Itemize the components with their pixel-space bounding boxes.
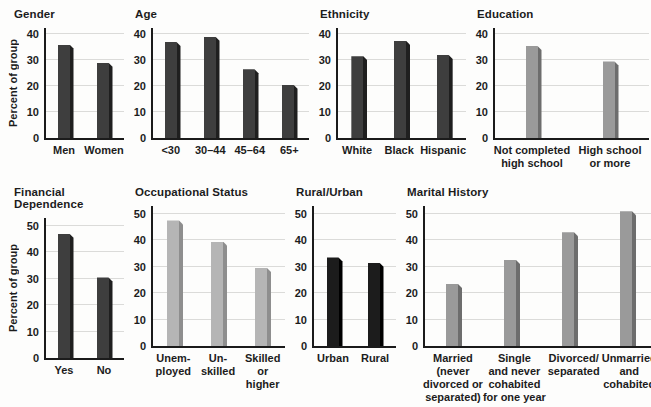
y-tick-label: 30 bbox=[295, 261, 307, 272]
category-labels: Unem- ployedUn- skilledSkilled or higher bbox=[151, 352, 285, 391]
y-axis-ticks: 01020304050 bbox=[20, 218, 44, 358]
chart-gender: GenderPercent of group010203040MenWomen bbox=[6, 8, 124, 157]
plot-area bbox=[151, 206, 285, 348]
y-tick-label: 10 bbox=[476, 107, 488, 118]
category-label: Un- skilled bbox=[196, 352, 241, 391]
y-tick-label: 40 bbox=[27, 247, 39, 258]
chart-row-1: GenderPercent of group010203040MenWomenA… bbox=[6, 8, 651, 170]
y-axis-ticks: 01020304050 bbox=[288, 206, 312, 346]
y-tick-label: 0 bbox=[140, 133, 146, 144]
bar bbox=[504, 260, 520, 346]
chart-age: Age010203040<3030–4445–6465+ bbox=[127, 8, 309, 157]
bar-slot bbox=[85, 28, 124, 138]
y-axis-label: Percent of group bbox=[6, 218, 20, 358]
bar-slot bbox=[85, 218, 124, 358]
bar bbox=[327, 257, 343, 345]
y-tick-label: 50 bbox=[406, 208, 418, 219]
bar-slot bbox=[192, 28, 231, 138]
category-label: Divorced/ separated bbox=[546, 352, 602, 404]
y-tick-label: 10 bbox=[27, 326, 39, 337]
plot-area bbox=[312, 206, 396, 348]
y-tick-label: 30 bbox=[134, 55, 146, 66]
category-label: High school or more bbox=[571, 144, 649, 170]
y-tick-label: 10 bbox=[319, 107, 331, 118]
category-label: Unmarried and cohabited bbox=[601, 352, 651, 404]
y-tick-label: 40 bbox=[134, 29, 146, 40]
bars-layer bbox=[314, 206, 396, 346]
bar bbox=[368, 263, 384, 346]
category-label: Men bbox=[44, 144, 84, 157]
y-tick-label: 20 bbox=[27, 81, 39, 92]
category-labels: MenWomen bbox=[44, 144, 124, 157]
bar-slot bbox=[241, 206, 285, 346]
y-tick-label: 30 bbox=[319, 55, 331, 66]
bar-slot bbox=[197, 206, 241, 346]
category-label: 30–44 bbox=[191, 144, 231, 157]
y-tick-label: 40 bbox=[27, 29, 39, 40]
plot-area bbox=[44, 28, 124, 140]
y-tick-label: 40 bbox=[134, 235, 146, 246]
category-label: Women bbox=[84, 144, 124, 157]
y-tick-label: 10 bbox=[295, 314, 307, 325]
y-tick-label: 20 bbox=[27, 300, 39, 311]
bars-layer bbox=[153, 28, 309, 138]
chart-row-2: Financial DependencePercent of group0102… bbox=[6, 186, 651, 404]
category-labels: <3030–4445–6465+ bbox=[151, 144, 309, 157]
bar bbox=[58, 234, 74, 358]
bars-layer bbox=[495, 28, 649, 138]
bar-slot bbox=[314, 206, 355, 346]
bar bbox=[394, 41, 410, 138]
bar-slot bbox=[338, 28, 381, 138]
y-axis-ticks: 010203040 bbox=[127, 28, 151, 138]
bar bbox=[282, 85, 298, 138]
bar bbox=[446, 284, 462, 346]
y-tick-label: 30 bbox=[27, 55, 39, 66]
category-labels: WhiteBlackHispanic bbox=[336, 144, 466, 157]
chart-body: 01020304050Married (never divorced or se… bbox=[399, 206, 651, 404]
y-tick-label: 10 bbox=[134, 107, 146, 118]
y-tick-label: 20 bbox=[319, 81, 331, 92]
y-axis-ticks: 01020304050 bbox=[127, 206, 151, 346]
chart-title: Financial Dependence bbox=[14, 186, 124, 210]
bar-slot bbox=[231, 28, 270, 138]
bar bbox=[204, 37, 220, 138]
bar bbox=[437, 55, 453, 138]
chart-title: Ethnicity bbox=[320, 8, 466, 20]
plot-column: YesNo bbox=[44, 218, 124, 377]
plot-area bbox=[44, 218, 124, 360]
category-label: No bbox=[84, 364, 124, 377]
category-label: Yes bbox=[44, 364, 84, 377]
category-labels: UrbanRural bbox=[312, 352, 396, 365]
bar bbox=[167, 220, 183, 345]
bar bbox=[620, 211, 636, 346]
bar bbox=[97, 63, 113, 138]
chart-rural-urban: Rural/Urban01020304050UrbanRural bbox=[288, 186, 396, 365]
chart-body: 01020304050Unem- ployedUn- skilledSkille… bbox=[127, 206, 285, 391]
bar bbox=[526, 46, 542, 138]
bar bbox=[562, 232, 578, 346]
bar-slot bbox=[153, 28, 192, 138]
y-tick-label: 0 bbox=[325, 133, 331, 144]
y-tick-label: 0 bbox=[482, 133, 488, 144]
y-tick-label: 20 bbox=[295, 288, 307, 299]
category-labels: YesNo bbox=[44, 364, 124, 377]
category-label: <30 bbox=[151, 144, 191, 157]
bar-slot bbox=[46, 28, 85, 138]
category-labels: Not completed high schoolHigh school or … bbox=[493, 144, 649, 170]
bar bbox=[165, 42, 181, 138]
bar bbox=[211, 242, 227, 346]
y-tick-label: 20 bbox=[406, 288, 418, 299]
y-tick-label: 10 bbox=[134, 314, 146, 325]
category-label: Skilled or higher bbox=[240, 352, 285, 391]
chart-body: 010203040<3030–4445–6465+ bbox=[127, 28, 309, 157]
y-tick-label: 40 bbox=[406, 235, 418, 246]
plot-area bbox=[151, 28, 309, 140]
y-tick-label: 40 bbox=[476, 29, 488, 40]
chart-ethnicity: Ethnicity010203040WhiteBlackHispanic bbox=[312, 8, 466, 157]
chart-title: Occupational Status bbox=[135, 186, 285, 198]
chart-body: 01020304050UrbanRural bbox=[288, 206, 396, 365]
chart-title: Gender bbox=[14, 8, 124, 20]
chart-title: Rural/Urban bbox=[296, 186, 396, 198]
y-tick-label: 40 bbox=[319, 29, 331, 40]
bar-slot bbox=[46, 218, 85, 358]
